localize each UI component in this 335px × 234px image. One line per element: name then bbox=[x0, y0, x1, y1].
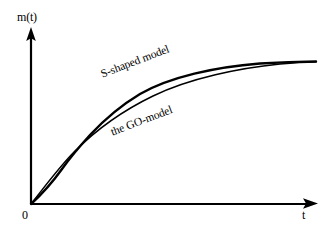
curve-s-shaped-model bbox=[31, 61, 316, 204]
plot-svg bbox=[0, 0, 335, 234]
y-axis-label: m(t) bbox=[17, 11, 37, 23]
figure-canvas: m(t) 0 t S-shaped model the GO-model bbox=[0, 0, 335, 234]
origin-label: 0 bbox=[22, 209, 28, 221]
curve-go-model bbox=[31, 62, 316, 204]
x-axis-label: t bbox=[302, 209, 305, 221]
